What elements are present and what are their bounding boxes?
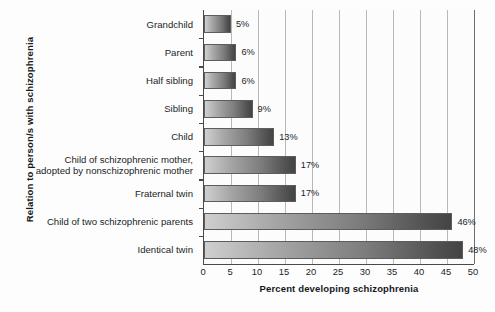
x-axis-tick-label: 10 — [252, 266, 262, 277]
y-axis-tick — [199, 95, 204, 96]
y-axis-tick — [199, 151, 204, 152]
x-axis-tick-label: 0 — [200, 266, 205, 277]
x-axis-tick-label: 20 — [306, 266, 316, 277]
bar-row: 17% — [204, 185, 474, 203]
bar-row: 5% — [204, 15, 474, 33]
y-axis-tick — [199, 236, 204, 237]
bar-row: 6% — [204, 72, 474, 90]
x-axis-tick-label: 15 — [279, 266, 289, 277]
bar-row: 9% — [204, 100, 474, 118]
bar — [204, 100, 253, 118]
y-axis-tick — [199, 66, 204, 67]
bar — [204, 72, 236, 90]
category-label: Parent — [21, 47, 193, 58]
bar-row: 17% — [204, 156, 474, 174]
bar — [204, 156, 296, 174]
category-label: Identical twin — [21, 244, 193, 255]
bar-value-label: 46% — [457, 217, 475, 227]
category-label-column: GrandchildParentHalf siblingSiblingChild… — [24, 10, 198, 264]
bar-value-label: 17% — [301, 160, 319, 170]
category-label: Half sibling — [21, 75, 193, 86]
bar — [204, 44, 236, 62]
category-label: Fraternal twin — [21, 188, 193, 199]
x-axis-tick-label: 45 — [441, 266, 451, 277]
bar — [204, 213, 452, 231]
bar-row: 6% — [204, 44, 474, 62]
category-label: Sibling — [21, 103, 193, 114]
bar — [204, 241, 463, 259]
plot-area: 5%6%6%9%13%17%17%46%48% — [203, 10, 474, 265]
x-axis-tick-label: 50 — [468, 266, 478, 277]
category-label: Child of two schizophrenic parents — [21, 216, 193, 227]
x-axis-tick-label: 35 — [387, 266, 397, 277]
bar — [204, 185, 296, 203]
x-axis-tick-label: 30 — [360, 266, 370, 277]
y-axis-tick — [199, 123, 204, 124]
x-axis-tick-label: 25 — [333, 266, 343, 277]
bar-value-label: 13% — [279, 132, 297, 142]
bar — [204, 128, 274, 146]
y-axis-tick — [199, 208, 204, 209]
bar-value-label: 9% — [258, 104, 271, 114]
x-axis-title: Percent developing schizophrenia — [203, 283, 475, 294]
x-axis-tick-labels: 05101520253035404550 — [203, 266, 475, 280]
x-axis-tick-label: 40 — [414, 266, 424, 277]
category-label: Child of schizophrenic mother, adopted b… — [21, 154, 193, 176]
bar — [204, 15, 231, 33]
category-label: Grandchild — [21, 19, 193, 30]
category-label: Child — [21, 131, 193, 142]
bar-row: 48% — [204, 241, 474, 259]
bar-value-label: 17% — [301, 188, 319, 198]
bar-chart: Relation to person/s with schizophrenia … — [0, 0, 495, 312]
bar-row: 46% — [204, 213, 474, 231]
y-axis-tick — [199, 38, 204, 39]
bar-row: 13% — [204, 128, 474, 146]
bar-series: 5%6%6%9%13%17%17%46%48% — [204, 10, 474, 264]
bar-value-label: 5% — [236, 19, 249, 29]
bar-value-label: 6% — [241, 76, 254, 86]
x-axis-tick-label: 5 — [227, 266, 232, 277]
bar-value-label: 48% — [468, 245, 486, 255]
y-axis-tick — [199, 179, 204, 180]
bar-value-label: 6% — [241, 47, 254, 57]
